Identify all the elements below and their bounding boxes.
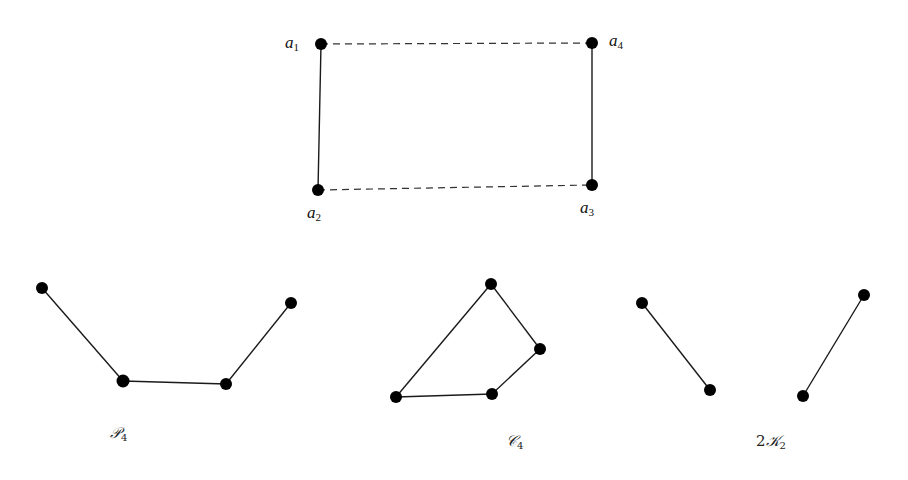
vertex bbox=[36, 282, 48, 294]
vertex-a2 bbox=[312, 184, 324, 196]
dashed-edge-a1-a4 bbox=[321, 43, 592, 44]
label-subscript: 3 bbox=[589, 206, 595, 218]
label-subscript: 2 bbox=[316, 211, 322, 223]
caption-text: 𝒫 bbox=[110, 424, 121, 442]
caption-c4: 𝒞4 bbox=[506, 434, 523, 451]
caption-prefix: 2 bbox=[756, 432, 766, 450]
label-a3: a3 bbox=[580, 199, 594, 218]
caption-text: 𝒦 bbox=[766, 432, 780, 450]
vertex bbox=[858, 289, 870, 301]
label-text: a bbox=[580, 198, 589, 217]
two-k2-graph bbox=[636, 289, 870, 402]
graph-diagram bbox=[0, 0, 908, 480]
label-a1: a1 bbox=[285, 34, 299, 53]
vertex bbox=[534, 343, 546, 355]
vertex bbox=[220, 378, 232, 390]
path-graph-p4 bbox=[36, 282, 297, 390]
caption-subscript: 2 bbox=[780, 440, 786, 451]
vertex bbox=[704, 384, 716, 396]
vertex bbox=[486, 388, 498, 400]
top-graph bbox=[312, 37, 598, 196]
caption-p4: 𝒫4 bbox=[110, 426, 127, 443]
vertex bbox=[390, 391, 402, 403]
caption-subscript: 4 bbox=[517, 440, 523, 451]
caption-subscript: 4 bbox=[121, 432, 127, 443]
label-subscript: 1 bbox=[294, 41, 300, 53]
caption-2k2: 2𝒦2 bbox=[756, 434, 786, 451]
vertex-a3 bbox=[586, 179, 598, 191]
edge bbox=[396, 284, 491, 397]
label-text: a bbox=[307, 203, 316, 222]
vertex bbox=[797, 390, 809, 402]
vertex bbox=[636, 297, 648, 309]
edge bbox=[42, 288, 123, 381]
edge bbox=[491, 284, 540, 349]
label-text: a bbox=[285, 33, 294, 52]
edge-a1-a2 bbox=[318, 44, 321, 190]
cycle-graph-c4 bbox=[390, 278, 546, 403]
edge bbox=[642, 303, 710, 390]
edge bbox=[803, 295, 864, 396]
label-text: a bbox=[609, 31, 618, 50]
vertex-a4 bbox=[586, 37, 598, 49]
caption-text: 𝒞 bbox=[506, 432, 517, 450]
edge bbox=[123, 381, 226, 384]
label-a4: a4 bbox=[609, 32, 623, 51]
vertex bbox=[117, 375, 130, 388]
edge bbox=[226, 303, 291, 384]
label-subscript: 4 bbox=[618, 39, 624, 51]
edge bbox=[396, 394, 492, 397]
edge bbox=[492, 349, 540, 394]
vertex-a1 bbox=[315, 38, 327, 50]
vertex bbox=[285, 297, 297, 309]
dashed-edge-a2-a3 bbox=[318, 185, 592, 190]
vertex bbox=[485, 278, 497, 290]
label-a2: a2 bbox=[307, 204, 321, 223]
